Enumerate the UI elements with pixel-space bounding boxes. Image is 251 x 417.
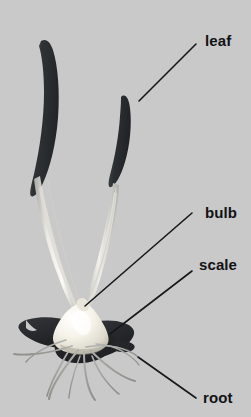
label-bulb: bulb — [205, 205, 237, 220]
label-root: root — [203, 390, 233, 405]
label-leaf: leaf — [205, 33, 231, 48]
label-scale: scale — [199, 257, 237, 272]
anatomy-figure: leaf bulb scale root — [0, 0, 251, 417]
